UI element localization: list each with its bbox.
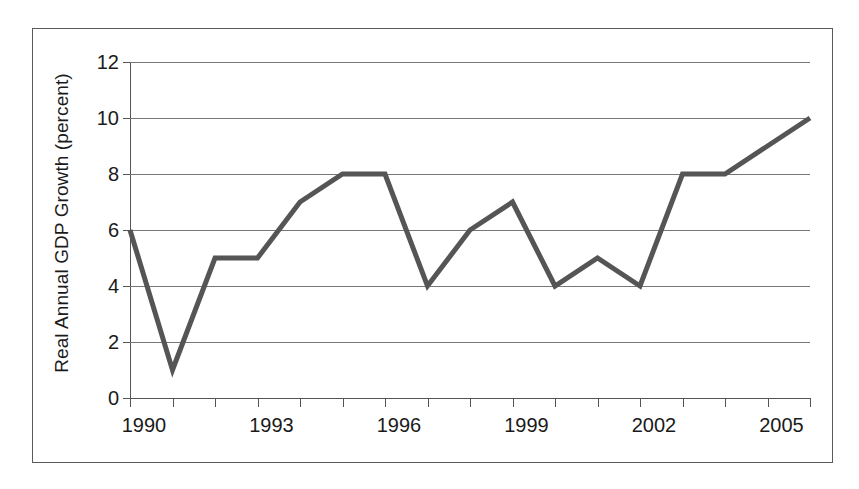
x-tick-mark-2002 <box>640 398 641 407</box>
x-tick-label-1990: 1990 <box>122 414 167 437</box>
x-tick-mark-2003 <box>683 398 684 407</box>
x-tick-mark-1994 <box>300 398 301 407</box>
y-tick-label-0: 0 <box>108 387 119 410</box>
data-series-line <box>130 62 810 398</box>
x-tick-mark-1991 <box>173 398 174 407</box>
x-tick-mark-2001 <box>598 398 599 407</box>
y-tick-label-8: 8 <box>108 163 119 186</box>
gdp-growth-line <box>130 118 810 370</box>
y-tick-label-2: 2 <box>108 331 119 354</box>
x-tick-mark-2005 <box>768 398 769 407</box>
y-tick-mark-0 <box>123 398 130 399</box>
x-tick-mark-1992 <box>215 398 216 407</box>
x-tick-mark-1999 <box>513 398 514 407</box>
y-tick-mark-10 <box>123 118 130 119</box>
plot-area: 024681012 199019931996199920022005 <box>130 62 810 398</box>
y-tick-mark-4 <box>123 286 130 287</box>
x-tick-mark-1998 <box>470 398 471 407</box>
x-tick-mark-1995 <box>343 398 344 407</box>
x-tick-mark-2000 <box>555 398 556 407</box>
x-tick-mark-2004 <box>725 398 726 407</box>
y-tick-mark-12 <box>123 62 130 63</box>
y-tick-label-6: 6 <box>108 219 119 242</box>
x-tick-mark-1993 <box>258 398 259 407</box>
y-tick-label-4: 4 <box>108 275 119 298</box>
x-tick-mark-1996 <box>385 398 386 407</box>
x-tick-label-2005: 2005 <box>759 414 804 437</box>
chart-figure: Real Annual GDP Growth (percent) 0246810… <box>0 0 859 489</box>
x-tick-label-1993: 1993 <box>249 414 294 437</box>
x-tick-mark-2006 <box>810 398 811 407</box>
y-tick-mark-8 <box>123 174 130 175</box>
x-tick-mark-1997 <box>428 398 429 407</box>
x-tick-label-1996: 1996 <box>377 414 422 437</box>
x-tick-label-2002: 2002 <box>632 414 677 437</box>
y-tick-mark-2 <box>123 342 130 343</box>
x-tick-label-1999: 1999 <box>504 414 549 437</box>
y-tick-label-12: 12 <box>97 51 119 74</box>
y-tick-label-10: 10 <box>97 107 119 130</box>
y-axis-title: Real Annual GDP Growth (percent) <box>51 43 73 403</box>
x-tick-mark-1990 <box>130 398 131 407</box>
